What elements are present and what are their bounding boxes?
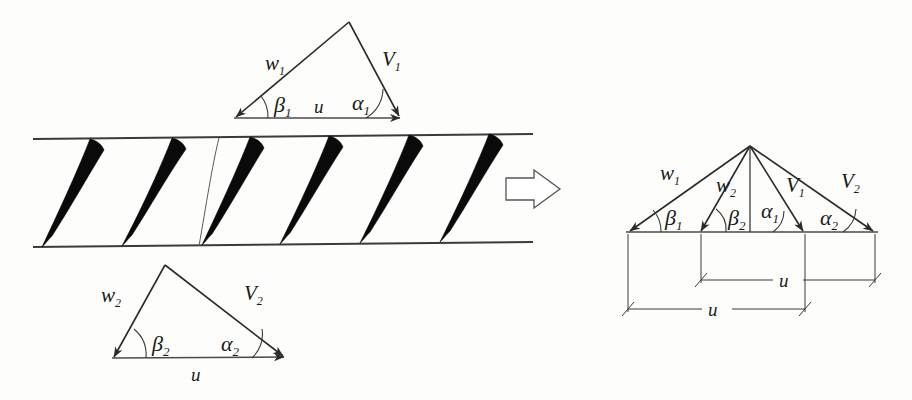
inlet-beta1-label: β1 [273,92,291,120]
inlet-alpha1-label: α1 [352,90,370,118]
inlet-w1-label: w1 [265,51,285,78]
cascade-bottom-wall [33,242,533,247]
cascade-top-wall [33,134,533,139]
blade-5 [360,135,423,243]
inlet-u-label: u [314,96,324,117]
outlet-w2-label: w2 [101,283,121,310]
blade-3 [202,137,264,245]
outlet-beta2-arc [134,329,146,358]
dimension-u-upper: u [695,234,881,291]
inlet-V1-label: V1 [382,47,401,74]
dimension-u-upper-label: u [779,270,789,291]
blade-4 [280,136,343,244]
blade-6 [440,134,503,242]
inlet-beta1-arc [261,96,268,118]
outlet-beta2-label: β2 [151,331,170,359]
outlet-u-label: u [191,364,201,385]
outlet-alpha2-label: α2 [221,331,240,359]
right-arrow-icon [506,170,560,208]
combined-alpha2-label: α2 [820,205,839,233]
dimension-u-lower-label: u [708,299,718,320]
combined-V1-label: V1 [786,173,805,200]
transfer-arrow [506,170,560,208]
combined-w1-label: w1 [660,161,680,188]
diagram-canvas: w1 V1 β1 α1 u [0,0,912,400]
combined-V2-label: V2 [841,169,860,196]
outlet-u-vector [112,357,284,358]
blade-2 [122,138,186,246]
combined-beta2-label: β2 [727,205,746,233]
blade-1 [42,139,104,247]
inlet-velocity-triangle: w1 V1 β1 α1 u [234,22,401,120]
combined-alpha1-label: α1 [761,198,779,226]
combined-beta2-arc [716,209,726,232]
combined-beta1-label: β1 [664,205,682,233]
outlet-V2-label: V2 [244,281,263,308]
combined-velocity-triangle: w1 w2 V1 V2 β1 β2 α1 α2 [622,146,881,320]
outlet-velocity-triangle: w2 V2 β2 α2 u [101,265,284,385]
blade-cascade [33,134,533,247]
inlet-w1-vector [236,22,349,117]
